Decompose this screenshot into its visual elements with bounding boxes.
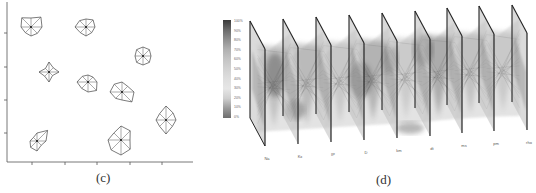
axis-ticks <box>4 33 162 165</box>
star-glyph <box>77 75 97 92</box>
svg-text:40%: 40% <box>234 77 241 81</box>
svg-text:50%: 50% <box>234 67 241 71</box>
axis-label: dt <box>430 146 434 151</box>
star-glyph <box>108 126 130 155</box>
svg-text:0%: 0% <box>234 115 239 119</box>
star-glyph <box>39 62 59 82</box>
figure: 100%90%80%70%60%50%40%30%20%10%0% NaKxIP… <box>0 0 536 193</box>
legend-colorbar <box>223 20 231 118</box>
star-glyph <box>30 130 48 151</box>
axis-label: Na <box>264 156 270 161</box>
axis-planes <box>250 5 527 146</box>
svg-text:90%: 90% <box>234 29 241 33</box>
star-glyphs <box>21 17 176 155</box>
svg-text:60%: 60% <box>234 57 241 61</box>
svg-text:100%: 100% <box>234 19 243 23</box>
axis-plane-na <box>250 21 265 146</box>
density-legend: 100%90%80%70%60%50%40%30%20%10%0% <box>223 19 243 119</box>
star-glyph <box>135 47 151 65</box>
axis-label: ms <box>461 143 466 148</box>
svg-text:10%: 10% <box>234 105 241 109</box>
axis-label: rho <box>526 140 533 145</box>
star-glyph-panel <box>4 2 193 165</box>
star-glyph <box>21 17 42 36</box>
axis-label: km <box>396 148 402 153</box>
panel-label-c: (c) <box>96 170 110 186</box>
star-glyph <box>75 19 95 36</box>
legend-tick-labels: 100%90%80%70%60%50%40%30%20%10%0% <box>234 19 243 119</box>
figure-canvas: 100%90%80%70%60%50%40%30%20%10%0% NaKxIP… <box>0 0 536 193</box>
axis-label: pm <box>493 141 499 146</box>
star-glyph <box>156 106 176 134</box>
axis-label: D <box>365 150 368 155</box>
axis-label: Kx <box>298 154 303 159</box>
svg-text:20%: 20% <box>234 96 241 100</box>
panel-label-d: (d) <box>376 172 391 188</box>
parallel-coordinates-panel: 100%90%80%70%60%50%40%30%20%10%0% NaKxIP… <box>223 5 533 161</box>
star-glyph <box>110 82 134 102</box>
svg-text:70%: 70% <box>234 48 241 52</box>
svg-text:30%: 30% <box>234 86 241 90</box>
axis-label: IP <box>331 152 335 157</box>
svg-text:80%: 80% <box>234 38 241 42</box>
axis-labels: NaKxIPDkmdtmspmrho <box>264 140 532 161</box>
